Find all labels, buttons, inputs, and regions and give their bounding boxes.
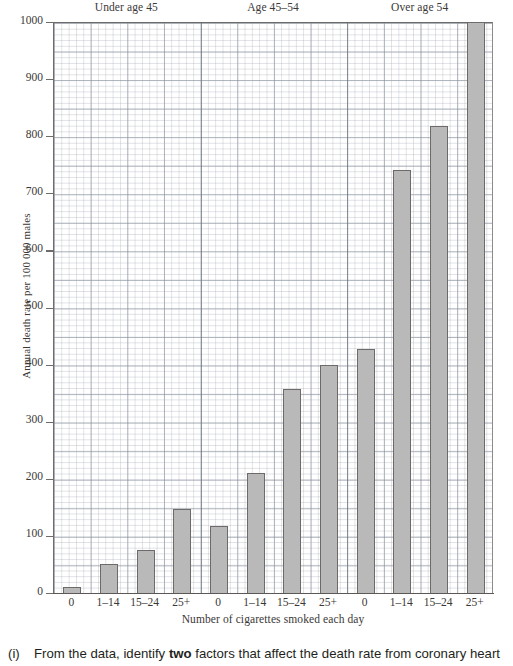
y-tick-600: 600 xyxy=(0,250,53,251)
y-tick-800: 800 xyxy=(0,136,53,137)
y-tick-label: 500 xyxy=(26,299,43,311)
y-tick-mark xyxy=(46,365,53,366)
x-tick-label: 25+ xyxy=(466,596,484,608)
y-tick-mark xyxy=(46,308,53,309)
y-tick-900: 900 xyxy=(0,79,53,80)
x-tick-label: 25+ xyxy=(319,596,337,608)
group-header-1: Under age 45 xyxy=(95,1,158,13)
y-tick-mark xyxy=(46,250,53,251)
y-axis-title: Annual death rate per 100 000 males xyxy=(20,186,32,406)
y-tick-label: 300 xyxy=(26,413,43,425)
x-axis-title: Number of cigarettes smoked each day xyxy=(53,613,493,625)
y-tick-label: 800 xyxy=(26,128,43,140)
bar xyxy=(173,509,191,594)
bar xyxy=(247,473,265,593)
bar xyxy=(210,526,228,593)
plot-area xyxy=(53,22,493,593)
y-tick-mark xyxy=(46,136,53,137)
x-tick-label: 15–24 xyxy=(130,596,159,608)
y-tick-700: 700 xyxy=(0,193,53,194)
y-tick-0: 0 xyxy=(0,593,53,594)
y-tick-label: 400 xyxy=(26,356,43,368)
x-tick-label: 15–24 xyxy=(277,596,306,608)
bar xyxy=(137,550,155,593)
x-tick-label: 15–24 xyxy=(424,596,453,608)
bar xyxy=(467,22,485,593)
y-tick-label: 600 xyxy=(26,242,43,254)
y-tick-mark xyxy=(46,79,53,80)
group-header-2: Age 45–54 xyxy=(247,1,299,13)
group-separator-2 xyxy=(347,23,348,593)
x-tick-label: 1–14 xyxy=(390,596,413,608)
y-tick-label: 1000 xyxy=(20,14,43,26)
bar xyxy=(393,170,411,593)
question-line: (i) From the data, identify two factors … xyxy=(0,640,513,666)
bar xyxy=(100,564,118,593)
y-tick-500: 500 xyxy=(0,308,53,309)
x-tick-label: 0 xyxy=(215,596,221,608)
y-tick-100: 100 xyxy=(0,536,53,537)
group-header-3: Over age 54 xyxy=(391,1,448,13)
x-tick-label: 1–14 xyxy=(97,596,120,608)
x-tick-label: 25+ xyxy=(172,596,190,608)
bar-chart-figure: Under age 45Age 45–54Over age 54 Annual … xyxy=(0,0,513,632)
y-tick-label: 200 xyxy=(26,470,43,482)
bar xyxy=(283,389,301,593)
group-separator-1 xyxy=(201,23,202,593)
x-tick-label: 0 xyxy=(68,596,74,608)
x-tick-label: 1–14 xyxy=(243,596,266,608)
y-tick-label: 700 xyxy=(26,185,43,197)
x-axis-line xyxy=(53,593,494,594)
y-tick-mark xyxy=(46,479,53,480)
question-text: From the data, identify two factors that… xyxy=(34,646,513,661)
bar xyxy=(357,349,375,593)
bar xyxy=(320,365,338,593)
y-tick-mark xyxy=(46,536,53,537)
y-tick-1000: 1000 xyxy=(0,22,53,23)
y-tick-mark xyxy=(46,422,53,423)
y-tick-mark xyxy=(46,193,53,194)
x-tick-label: 0 xyxy=(362,596,368,608)
y-tick-mark xyxy=(46,22,53,23)
y-tick-400: 400 xyxy=(0,365,53,366)
y-tick-label: 100 xyxy=(26,527,43,539)
y-tick-300: 300 xyxy=(0,422,53,423)
y-tick-label: 0 xyxy=(37,585,43,597)
question-bold-word: two xyxy=(169,646,192,661)
y-tick-200: 200 xyxy=(0,479,53,480)
y-tick-mark xyxy=(46,593,53,594)
group-header-row: Under age 45Age 45–54Over age 54 xyxy=(53,0,493,20)
y-tick-label: 900 xyxy=(26,71,43,83)
bar xyxy=(430,126,448,593)
question-marker: (i) xyxy=(0,646,34,661)
